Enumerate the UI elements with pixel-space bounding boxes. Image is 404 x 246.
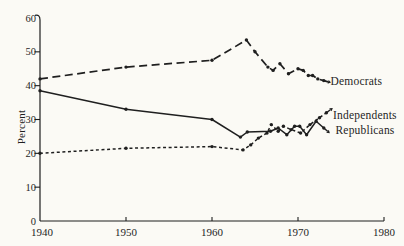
data-point-democrats <box>287 72 290 75</box>
y-tick-label-60: 60 <box>26 13 37 24</box>
data-point-democrats <box>316 77 319 80</box>
y-tick-label-30: 30 <box>26 114 37 125</box>
data-point-republicans <box>239 135 242 138</box>
data-point-independents <box>249 143 252 146</box>
data-point-republicans <box>277 126 280 129</box>
party-identification-figure: Percent 01020304050601940195019601970198… <box>0 0 404 246</box>
data-point-independents <box>318 116 321 119</box>
data-point-republicans <box>269 130 272 133</box>
data-point-independents <box>282 125 285 128</box>
data-point-republicans <box>210 118 213 121</box>
data-point-democrats <box>311 74 314 77</box>
data-point-democrats <box>266 65 269 68</box>
data-point-republicans <box>298 125 301 128</box>
data-point-republicans <box>305 133 308 136</box>
leader-republicans <box>324 128 328 131</box>
data-point-democrats <box>307 74 310 77</box>
series-label-democrats: Democrats <box>331 75 383 87</box>
data-point-independents <box>299 131 302 134</box>
data-point-independents <box>124 147 127 150</box>
data-point-democrats <box>253 50 256 53</box>
data-point-republicans <box>246 130 249 133</box>
data-point-independents <box>277 130 280 133</box>
series-line-republicans <box>40 91 324 137</box>
data-point-democrats <box>38 77 41 80</box>
data-point-independents <box>257 136 260 139</box>
x-tick-label-1950: 1950 <box>115 226 138 238</box>
data-point-independents <box>210 145 213 148</box>
data-point-democrats <box>296 67 299 70</box>
data-point-democrats <box>278 62 281 65</box>
data-point-republicans <box>314 120 317 123</box>
x-tick-label-1960: 1960 <box>201 226 224 238</box>
y-tick-label-40: 40 <box>26 80 37 91</box>
data-point-independents <box>308 123 311 126</box>
data-point-democrats <box>124 65 127 68</box>
series-label-republicans: Republicans <box>336 124 395 137</box>
party-id-line-chart: 010203040506019401950196019701980Democra… <box>0 0 404 246</box>
y-tick-label-50: 50 <box>26 46 37 57</box>
data-point-democrats <box>210 59 213 62</box>
x-tick-label-1940: 1940 <box>31 226 54 238</box>
data-point-democrats <box>271 69 274 72</box>
x-tick-label-1970: 1970 <box>287 226 310 238</box>
data-point-republicans <box>124 108 127 111</box>
y-tick-label-0: 0 <box>31 216 36 227</box>
data-point-independents <box>270 123 273 126</box>
series-line-democrats <box>40 40 324 81</box>
data-point-independents <box>241 148 244 151</box>
data-point-republicans <box>285 133 288 136</box>
data-point-democrats <box>302 69 305 72</box>
x-tick-label-1980: 1980 <box>373 226 396 238</box>
leader-democrats <box>324 81 328 82</box>
y-tick-label-20: 20 <box>26 148 37 159</box>
data-point-independents <box>38 152 41 155</box>
data-point-republicans <box>38 89 41 92</box>
series-label-independents: Independents <box>333 109 397 122</box>
data-point-democrats <box>245 38 248 41</box>
data-point-republicans <box>293 125 296 128</box>
y-tick-label-10: 10 <box>26 182 37 193</box>
